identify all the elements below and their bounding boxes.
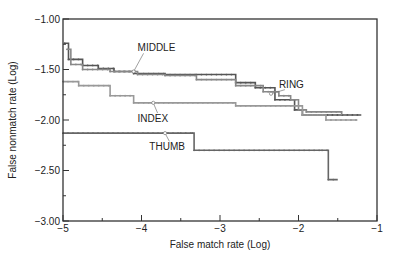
- annotation-thumb: THUMB: [149, 132, 185, 153]
- series-layer: [62, 42, 361, 180]
- x-tick-label: −4: [136, 223, 148, 234]
- annotation-index: INDEX: [138, 101, 169, 124]
- y-tick-label: −2.00: [35, 115, 61, 126]
- series-index: [62, 81, 357, 121]
- x-axis-title: False match rate (Log): [170, 239, 271, 250]
- frr-vs-fmr-chart: −5−4−3−2−1−1.00−1.50−2.00−2.50−3.00 MIDD…: [0, 0, 395, 254]
- annotation-label: MIDDLE: [138, 42, 176, 53]
- series-thumb: [62, 132, 338, 180]
- y-tick-label: −2.50: [35, 165, 61, 176]
- y-tick-label: −1.00: [35, 14, 61, 25]
- x-tick-label: −2: [293, 223, 305, 234]
- annotation-label: INDEX: [138, 113, 169, 124]
- x-tick-label: −1: [371, 223, 383, 234]
- x-tick-label: −3: [214, 223, 226, 234]
- annotation-label: RING: [279, 79, 304, 90]
- annotation-middle: MIDDLE: [132, 42, 176, 73]
- y-tick-label: −3.00: [35, 216, 61, 227]
- annotation-label: THUMB: [149, 141, 185, 152]
- annotations: MIDDLERINGINDEXTHUMB: [132, 42, 304, 152]
- y-axis-title: False nonmatch rate (Log): [7, 61, 18, 178]
- axis-ticks: −5−4−3−2−1−1.00−1.50−2.00−2.50−3.00: [35, 14, 383, 235]
- y-tick-label: −1.50: [35, 64, 61, 75]
